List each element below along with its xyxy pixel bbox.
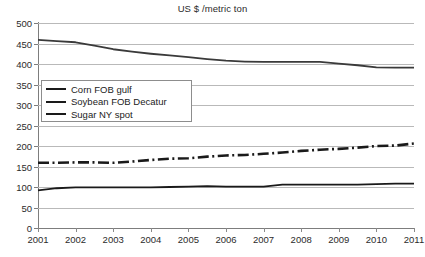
- legend-item-label: Corn FOB gulf: [71, 84, 132, 95]
- y-axis-tick-label: 500: [2, 18, 32, 29]
- legend-item[interactable]: Corn FOB gulf: [46, 83, 191, 96]
- x-axis-tick-label: 2008: [291, 234, 312, 245]
- x-axis-tick-mark: [226, 228, 227, 232]
- legend-item[interactable]: Sugar NY spot: [46, 108, 191, 121]
- x-axis-tick-mark: [188, 228, 189, 232]
- x-axis-tick-label: 2010: [366, 234, 387, 245]
- x-axis-tick-mark: [38, 228, 39, 232]
- x-axis-tick-mark: [76, 228, 77, 232]
- y-axis-tick-label: 250: [2, 120, 32, 131]
- x-axis-tick-label: 2002: [65, 234, 86, 245]
- series-line: [38, 40, 414, 68]
- x-axis-tick-label: 2001: [27, 234, 48, 245]
- plot-area: [38, 23, 414, 228]
- chart-container: US $ /metric ton 05010015020025030035040…: [0, 0, 425, 257]
- x-axis-tick-label: 2004: [140, 234, 161, 245]
- y-axis-tick-label: 100: [2, 182, 32, 193]
- series-line: [38, 144, 414, 163]
- y-axis-tick-label: 400: [2, 59, 32, 70]
- x-axis-tick-mark: [301, 228, 302, 232]
- y-axis-tick-label: 450: [2, 38, 32, 49]
- y-axis-tick-label: 50: [2, 202, 32, 213]
- legend-line-icon: [46, 84, 66, 94]
- x-axis-tick-mark: [376, 228, 377, 232]
- y-axis-tick-label: 0: [2, 223, 32, 234]
- x-axis-tick-label: 2011: [404, 234, 424, 245]
- y-axis-tick-label: 200: [2, 141, 32, 152]
- x-axis-tick-mark: [339, 228, 340, 232]
- x-axis-tick-mark: [414, 228, 415, 232]
- legend-item-label: Soybean FOB Decatur: [71, 96, 167, 107]
- legend-item-label: Sugar NY spot: [71, 109, 133, 120]
- legend-dashdot-line-icon: [46, 97, 66, 107]
- x-axis-tick-label: 2006: [215, 234, 236, 245]
- series-lines: [38, 23, 414, 228]
- x-axis-tick-label: 2007: [253, 234, 274, 245]
- y-axis-tick-label: 350: [2, 79, 32, 90]
- x-axis-tick-label: 2009: [328, 234, 349, 245]
- x-axis-tick-mark: [113, 228, 114, 232]
- chart-title: US $ /metric ton: [0, 3, 425, 14]
- legend-item[interactable]: Soybean FOB Decatur: [46, 96, 191, 109]
- chart-legend: Corn FOB gulf Soybean FOB Decatur Sugar …: [41, 80, 192, 122]
- y-axis-tick-label: 150: [2, 161, 32, 172]
- x-axis-tick-mark: [264, 228, 265, 232]
- legend-line-icon: [46, 109, 66, 119]
- x-axis-tick-mark: [151, 228, 152, 232]
- x-axis-tick-label: 2003: [103, 234, 124, 245]
- series-line: [38, 184, 414, 191]
- y-axis-tick-label: 300: [2, 100, 32, 111]
- x-axis-tick-label: 2005: [178, 234, 199, 245]
